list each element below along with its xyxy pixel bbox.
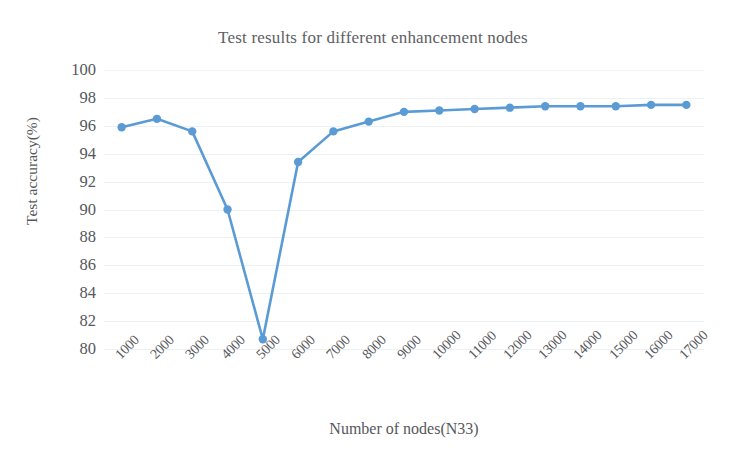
y-axis-tick-label: 100: [50, 62, 96, 79]
data-point-marker: [400, 108, 408, 116]
data-point-marker: [329, 127, 337, 135]
chart-title: Test results for different enhancement n…: [0, 28, 746, 48]
y-axis-tick-label: 84: [50, 285, 96, 302]
data-point-marker: [541, 102, 549, 110]
data-point-marker: [470, 105, 478, 113]
x-axis-title: Number of nodes(N33): [104, 420, 704, 438]
y-axis-tick-label: 90: [50, 201, 96, 218]
data-point-marker: [153, 115, 161, 123]
data-point-marker: [223, 205, 231, 213]
y-axis-tick-label: 88: [50, 229, 96, 246]
data-point-marker: [682, 101, 690, 109]
data-point-marker: [647, 101, 655, 109]
data-point-marker: [294, 158, 302, 166]
y-axis-tick-label: 92: [50, 173, 96, 190]
y-axis-tick-label: 80: [50, 341, 96, 358]
y-axis-tick-label: 96: [50, 118, 96, 135]
data-point-marker: [365, 117, 373, 125]
chart-figure: Test results for different enhancement n…: [0, 0, 746, 462]
data-point-marker: [506, 103, 514, 111]
y-axis-tick-label: 98: [50, 90, 96, 107]
x-axis-tick-labels: 1000200030004000500060007000800090001000…: [104, 352, 704, 414]
series-path: [122, 105, 687, 339]
y-axis-tick-label: 94: [50, 145, 96, 162]
y-axis-tick-labels: 10098969492908886848280: [50, 70, 96, 349]
data-point-marker: [188, 127, 196, 135]
data-point-marker: [612, 102, 620, 110]
data-point-marker: [576, 102, 584, 110]
series-line-test-accuracy: [104, 70, 704, 349]
y-axis-tick-label: 82: [50, 313, 96, 330]
y-axis-title: Test accuracy(%): [23, 76, 41, 266]
y-axis-tick-label: 86: [50, 257, 96, 274]
plot-area: [104, 70, 704, 349]
data-point-marker: [435, 106, 443, 114]
data-point-marker: [117, 123, 125, 131]
